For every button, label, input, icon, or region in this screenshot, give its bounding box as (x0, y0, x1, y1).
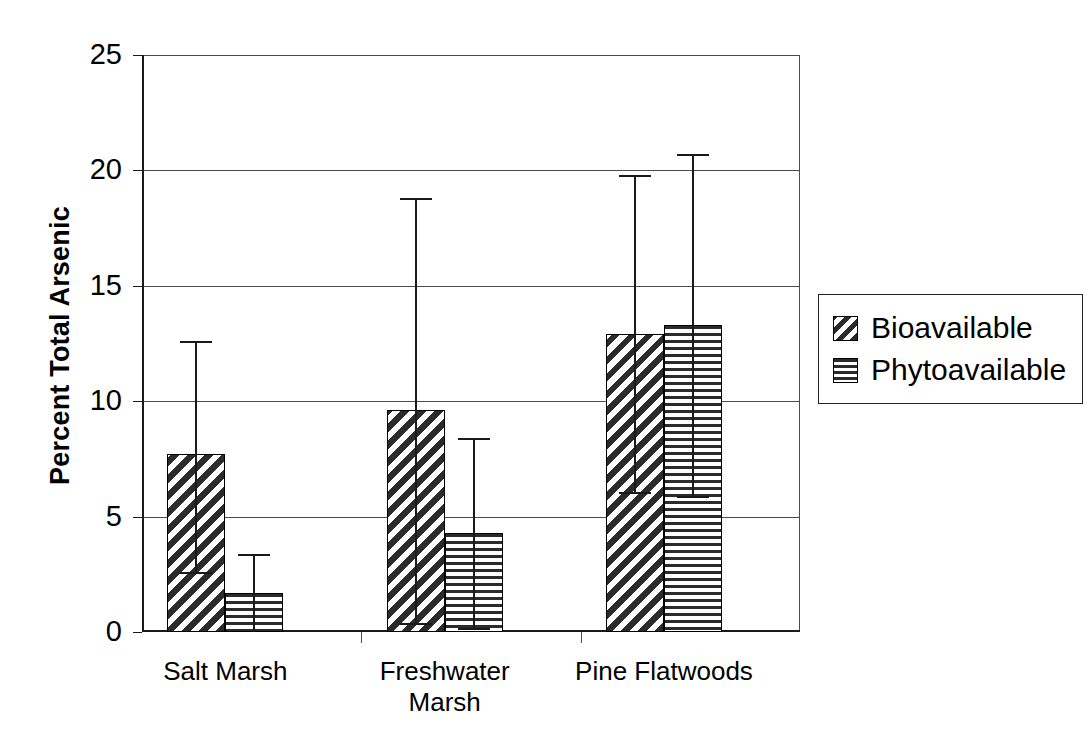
y-axis-tick-mark (133, 170, 142, 171)
gridline (142, 55, 800, 56)
legend-item[interactable]: Phytoavailable (833, 349, 1066, 391)
plot-area (142, 55, 800, 632)
bar-phytoavailable-0 (225, 593, 283, 632)
error-bar-cap-top (180, 341, 212, 343)
x-axis-tick-mark (581, 632, 582, 643)
bar-bioavailable-1 (387, 410, 445, 632)
x-axis-category-label: Pine Flatwoods (514, 656, 814, 687)
y-axis-tick-label: 15 (58, 271, 122, 300)
y-axis-tick-mark (133, 286, 142, 287)
gridline (142, 170, 800, 171)
y-axis-title: Percent Total Arsenic (45, 136, 76, 556)
legend-swatch-icon (833, 316, 858, 341)
bar-phytoavailable-1 (445, 533, 503, 632)
y-axis-tick-label: 25 (58, 40, 122, 69)
y-axis-tick-mark (133, 517, 142, 518)
x-axis-tick-mark (361, 632, 362, 643)
error-bar-cap-top (619, 175, 651, 177)
y-axis-tick-label: 10 (58, 386, 122, 415)
bar-phytoavailable-2 (664, 325, 722, 632)
legend-swatch-icon (833, 358, 858, 383)
error-bar-cap-top (400, 198, 432, 200)
y-axis-tick-label: 0 (58, 617, 122, 646)
y-axis-tick-label: 5 (58, 502, 122, 531)
plot-border-right (799, 55, 800, 632)
legend-item-label: Bioavailable (871, 313, 1033, 343)
error-bar-cap-top (238, 554, 270, 556)
bar-bioavailable-0 (167, 454, 225, 632)
y-axis-line (142, 55, 144, 632)
y-axis-tick-mark (133, 632, 142, 633)
error-bar-cap-top (458, 438, 490, 440)
legend-item-label: Phytoavailable (871, 355, 1066, 385)
bar-chart-figure: Percent Total Arsenic 0510152025 Salt Ma… (0, 0, 1087, 755)
y-axis-tick-label: 20 (58, 155, 122, 184)
chart-legend: BioavailablePhytoavailable (818, 294, 1083, 404)
y-axis-tick-mark (133, 401, 142, 402)
legend-item[interactable]: Bioavailable (833, 307, 1066, 349)
error-bar-cap-top (677, 154, 709, 156)
bar-bioavailable-2 (606, 334, 664, 632)
y-axis-tick-mark (133, 55, 142, 56)
gridline (142, 286, 800, 287)
